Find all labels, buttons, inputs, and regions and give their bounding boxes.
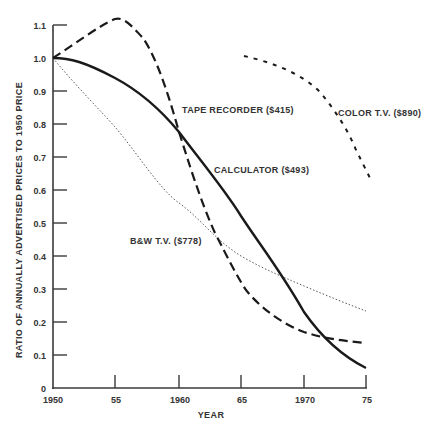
y-tick-labels: 0 0.1 0.2 0.3 0.4 0.5 0.6 0.7 0.8 0.9 1.…	[33, 21, 46, 394]
x-tick-label: 1950	[43, 395, 63, 405]
y-tick-label: 0	[41, 384, 46, 394]
price-ratio-chart: 0 0.1 0.2 0.3 0.4 0.5 0.6 0.7 0.8 0.9 1.…	[0, 0, 435, 431]
y-tick-label: 0.7	[33, 153, 46, 163]
y-tick-label: 0.8	[33, 120, 46, 130]
label-calculator: CALCULATOR ($493)	[214, 165, 309, 175]
label-tape-recorder: TAPE RECORDER ($415)	[182, 105, 294, 115]
x-tick-label: 1970	[295, 395, 315, 405]
y-tick-label: 0.4	[33, 252, 46, 262]
x-tick-label: 1960	[170, 395, 190, 405]
y-tick-label: 1.1	[33, 21, 46, 31]
x-ticks	[115, 375, 366, 388]
x-tick-label: 55	[111, 395, 121, 405]
y-tick-label: 1.0	[33, 54, 46, 64]
y-tick-label: 0.1	[33, 351, 46, 361]
series-tape-recorder-line	[53, 19, 366, 343]
y-axis-title: RATIO OF ANNUALLY ADVERTISED PRICES TO 1…	[14, 82, 24, 358]
y-tick-label: 0.9	[33, 87, 46, 97]
series-bw-tv-line	[53, 58, 366, 311]
axes	[52, 25, 367, 389]
label-bw-tv: B&W T.V. ($778)	[130, 236, 202, 246]
y-ticks	[53, 25, 67, 355]
x-tick-label: 75	[362, 395, 372, 405]
y-tick-label: 0.2	[33, 318, 46, 328]
x-tick-label: 65	[237, 395, 247, 405]
y-tick-label: 0.3	[33, 285, 46, 295]
label-color-tv: COLOR T.V. ($890)	[338, 108, 421, 118]
x-tick-labels: 1950 55 1960 65 1970 75	[43, 395, 372, 405]
y-tick-label: 0.5	[33, 219, 46, 229]
x-axis-title: YEAR	[198, 410, 225, 420]
y-tick-label: 0.6	[33, 186, 46, 196]
